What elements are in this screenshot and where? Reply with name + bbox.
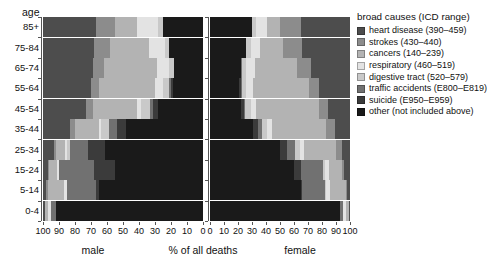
bar-segment-heart — [43, 38, 94, 58]
female-y-tickmark — [205, 78, 208, 79]
legend-item-other[interactable]: other (not included above) — [357, 106, 483, 118]
age-tick-15-24: 15-24 — [15, 165, 39, 175]
bar-segment-suicide — [280, 140, 287, 160]
legend-item-cancers[interactable]: cancers (140–239) — [357, 48, 483, 60]
bar-segment-cancers — [110, 38, 148, 58]
bar-segment-heart — [347, 180, 350, 200]
legend-item-strokes[interactable]: strokes (430–440) — [357, 37, 483, 49]
age-tick-0-4: 0-4 — [25, 206, 39, 216]
female-x-tickmark — [224, 222, 225, 225]
bar-segment-strokes — [326, 119, 334, 139]
bar-segment-suicide — [117, 119, 127, 139]
bar-segment-cancers — [260, 38, 282, 58]
male-y-tickmark — [38, 201, 41, 202]
female-x-tickmark — [210, 222, 211, 225]
legend-items: heart disease (390–459)strokes (430–440)… — [357, 25, 483, 118]
bar-segment-cancers — [56, 140, 66, 160]
male-y-tickmark — [38, 78, 41, 79]
bar-segment-cancers — [253, 78, 309, 98]
bar-row — [43, 119, 203, 139]
bar-segment-strokes — [309, 78, 319, 98]
legend-label: cancers (140–239) — [369, 49, 444, 58]
bar-segment-cancers — [48, 180, 64, 200]
female-y-tickmark — [205, 139, 208, 140]
female-y-tickmark — [205, 99, 208, 100]
bar-segment-cancers — [330, 180, 345, 200]
legend-item-digestive[interactable]: digestive tract (520–579) — [357, 71, 483, 83]
bar-segment-cancers — [304, 140, 336, 160]
female-x-tickmark — [280, 222, 281, 225]
bar-row — [43, 78, 203, 98]
age-tick-45-54: 45-54 — [15, 104, 39, 114]
bar-row — [210, 78, 350, 98]
female-panel-label: female — [260, 245, 340, 256]
bar-segment-other — [210, 119, 253, 139]
female-x-tickmark — [266, 222, 267, 225]
bar-segment-heart — [43, 140, 54, 160]
bar-segment-heart — [43, 58, 93, 78]
female-y-tickmark — [205, 17, 208, 18]
bar-segment-other — [173, 78, 203, 98]
female-x-tick-100: 100 — [340, 227, 360, 236]
female-x-tickmark — [294, 222, 295, 225]
age-tick-5-14: 5-14 — [20, 185, 39, 195]
bar-segment-other — [210, 180, 301, 200]
male-x-tickmark — [155, 222, 156, 225]
bar-segment-heart — [328, 99, 350, 119]
bar-segment-respiratory — [256, 17, 267, 37]
bar-segment-cancers — [75, 119, 99, 139]
bar-row — [210, 58, 350, 78]
bar-row — [43, 180, 203, 200]
bar-segment-respiratory — [246, 58, 254, 78]
bar-segment-other — [210, 58, 241, 78]
male-x-tickmark — [107, 222, 108, 225]
bar-segment-other — [56, 201, 203, 221]
bar-segment-other — [210, 99, 241, 119]
legend-swatch-cancers-icon — [357, 50, 365, 58]
bar-segment-heart — [43, 119, 70, 139]
male-y-spine — [41, 17, 42, 221]
bar-segment-traffic — [302, 180, 324, 200]
legend-label: strokes (430–440) — [369, 38, 442, 47]
legend-label: suicide (E950–E959) — [369, 96, 453, 105]
male-x-tickmark — [43, 222, 44, 225]
bar-segment-strokes — [283, 38, 303, 58]
legend: broad causes (ICD range) heart disease (… — [357, 11, 483, 118]
age-axis-title: age — [22, 6, 40, 18]
bar-segment-other — [210, 38, 246, 58]
bar-row — [43, 99, 203, 119]
legend-label: digestive tract (520–579) — [369, 73, 468, 82]
male-x-tickmark — [75, 222, 76, 225]
bar-segment-heart — [342, 140, 350, 160]
legend-item-respiratory[interactable]: respiratory (460–519) — [357, 60, 483, 72]
female-y-tickmark — [205, 180, 208, 181]
female-x-tickmark — [350, 222, 351, 225]
female-x-tickmark — [252, 222, 253, 225]
bar-segment-heart — [43, 17, 96, 37]
male-y-tickmark — [38, 58, 41, 59]
bar-row — [210, 140, 350, 160]
bar-segment-cancers — [272, 119, 327, 139]
bar-segment-respiratory — [137, 17, 158, 37]
legend-label: heart disease (390–459) — [369, 26, 467, 35]
bar-segment-other — [169, 38, 203, 58]
legend-item-suicide[interactable]: suicide (E950–E959) — [357, 95, 483, 107]
male-panel-plot — [43, 17, 203, 221]
male-x-tickmark — [171, 222, 172, 225]
bar-segment-heart — [335, 119, 350, 139]
bar-segment-strokes — [297, 58, 311, 78]
bar-segment-traffic — [301, 160, 323, 180]
legend-swatch-heart-icon — [357, 27, 365, 35]
bar-segment-traffic — [287, 140, 295, 160]
bar-row — [210, 201, 350, 221]
bar-segment-heart — [311, 58, 350, 78]
legend-item-heart[interactable]: heart disease (390–459) — [357, 25, 483, 37]
legend-label: respiratory (460–519) — [369, 61, 455, 70]
bar-segment-cancers — [256, 99, 319, 119]
legend-item-traffic[interactable]: traffic accidents (E800–E819) — [357, 83, 483, 95]
bar-segment-cancers — [115, 17, 137, 37]
female-x-tickmark — [336, 222, 337, 225]
male-x-tickmark — [123, 222, 124, 225]
bar-segment-other — [210, 17, 252, 37]
bar-segment-other — [210, 160, 294, 180]
